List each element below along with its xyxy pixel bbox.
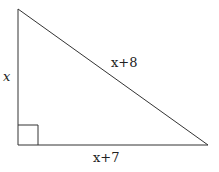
right-angle-marker — [18, 125, 38, 145]
triangle-diagram: x x+8 x+7 — [0, 0, 219, 172]
hypotenuse-label: x+8 — [111, 55, 138, 70]
triangle — [18, 9, 208, 145]
bottom-side-label: x+7 — [93, 150, 120, 165]
left-side-label: x — [3, 69, 11, 84]
